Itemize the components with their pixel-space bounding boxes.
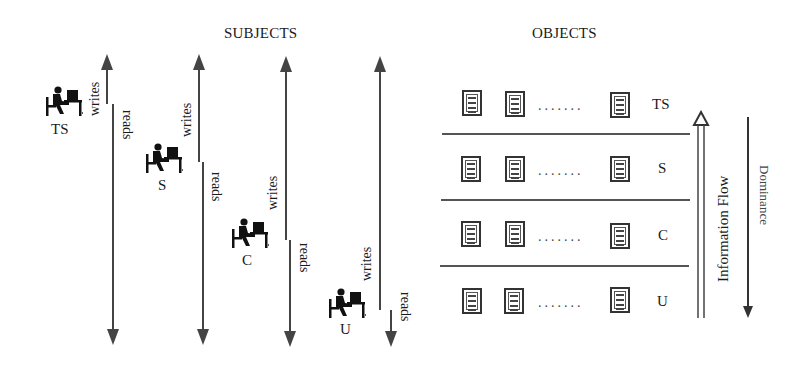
reads-line	[112, 104, 114, 330]
arrow-down-icon	[197, 329, 209, 345]
document-icon	[610, 92, 630, 118]
reads-line	[202, 162, 204, 330]
document-icon	[462, 288, 482, 314]
ellipsis: .......	[538, 98, 584, 114]
level-divider	[441, 199, 690, 201]
writes-line	[106, 68, 108, 104]
document-icon	[505, 156, 525, 182]
arrow-down-icon	[743, 306, 753, 318]
level-label: S	[658, 160, 666, 177]
reads-label: reads	[397, 292, 413, 322]
reads-label: reads	[119, 110, 135, 140]
document-icon	[610, 223, 630, 249]
arrow-down-icon	[107, 329, 119, 345]
ellipsis: .......	[538, 163, 584, 179]
writes-label: writes	[179, 103, 195, 137]
level-label: C	[658, 227, 668, 244]
writes-line	[198, 68, 200, 162]
document-icon	[462, 90, 482, 116]
dominance-label: Dominance	[756, 165, 772, 225]
hollow-arrow-up-icon	[690, 110, 712, 320]
level-divider	[440, 265, 689, 267]
writes-line	[285, 70, 287, 240]
information-flow-label: Information Flow	[715, 176, 732, 282]
document-icon	[505, 221, 525, 247]
document-icon	[505, 91, 525, 117]
level-label: TS	[652, 96, 670, 113]
arrow-down-icon	[385, 331, 397, 347]
reads-line	[390, 310, 392, 332]
reads-label: reads	[296, 243, 312, 273]
writes-label: writes	[265, 176, 281, 210]
writes-label: writes	[87, 82, 103, 116]
dominance-line	[747, 117, 749, 309]
arrow-down-icon	[284, 331, 296, 347]
reads-line	[289, 240, 291, 332]
document-icon	[610, 156, 630, 182]
subject-label: C	[242, 252, 252, 269]
person-at-computer-icon	[231, 218, 269, 248]
document-icon	[461, 156, 481, 182]
level-divider	[442, 133, 690, 135]
level-label: U	[657, 293, 668, 310]
objects-header: OBJECTS	[532, 25, 597, 42]
writes-label: writes	[359, 247, 375, 281]
subject-label: S	[158, 177, 166, 194]
document-icon	[610, 287, 630, 313]
subject-label: U	[340, 321, 351, 338]
reads-label: reads	[208, 172, 224, 202]
subject-label: TS	[51, 121, 69, 138]
writes-line	[379, 70, 381, 310]
ellipsis: .......	[538, 295, 584, 311]
ellipsis: .......	[538, 229, 584, 245]
person-at-computer-icon	[328, 288, 366, 318]
person-at-computer-icon	[45, 86, 83, 116]
document-icon	[461, 221, 481, 247]
subjects-header: SUBJECTS	[224, 25, 297, 42]
document-icon	[504, 288, 524, 314]
person-at-computer-icon	[145, 143, 183, 173]
